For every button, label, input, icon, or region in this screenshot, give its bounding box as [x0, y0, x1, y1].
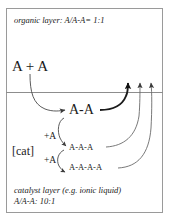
- diagram-canvas: organic layer: A/A-A= 1:1 A + A A-A [cat…: [0, 0, 171, 222]
- addition-label-first: +A: [44, 131, 56, 142]
- catalyst-ratio-label: A/A-A: 10:1: [14, 197, 55, 207]
- addition-label-second: +A: [44, 155, 56, 166]
- arrow-dimer-to-trimer: [58, 118, 66, 146]
- catalyst-layer-label: catalyst layer (e.g. ionic liquid): [14, 186, 121, 196]
- arrow-tetramer-to-organic: [118, 83, 152, 168]
- catalyst-label: [cat]: [12, 145, 34, 159]
- arrow-reactant-to-dimer: [30, 74, 65, 111]
- reactant-label: A + A: [12, 58, 48, 75]
- arrow-trimer-to-organic: [106, 83, 140, 147]
- trimer-label: A-A-A: [69, 143, 93, 153]
- arrow-dimer-to-organic: [100, 83, 128, 110]
- organic-layer-label: organic layer: A/A-A= 1:1: [14, 16, 104, 26]
- dimer-label: A-A: [69, 102, 94, 118]
- tetramer-label: A-A-A-A: [69, 163, 102, 173]
- arrow-trimer-to-tetramer: [58, 150, 65, 172]
